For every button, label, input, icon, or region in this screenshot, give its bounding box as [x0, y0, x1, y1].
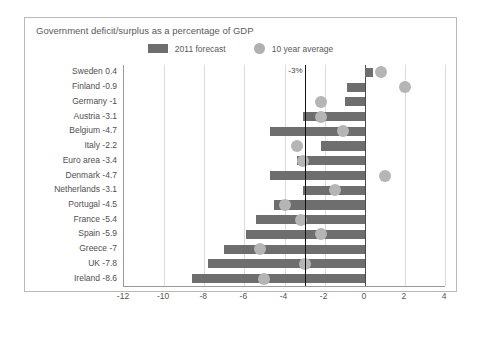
- bar: [321, 141, 365, 150]
- data-point-marker: [337, 125, 349, 137]
- legend-bar-swatch-icon: [148, 44, 168, 53]
- threshold-label: -3%: [288, 66, 304, 75]
- bar: [270, 171, 364, 180]
- category-label: Germany -1: [72, 97, 117, 106]
- data-point-marker: [291, 140, 303, 152]
- category-label: Finland -0.9: [72, 82, 117, 91]
- data-point-marker: [258, 273, 270, 285]
- category-label: Sweden 0.4: [72, 67, 117, 76]
- category-label: Italy -2.2: [84, 141, 117, 150]
- bar: [365, 68, 373, 77]
- category-label: Austria -3.1: [74, 112, 117, 121]
- x-axis-tick-label: -6: [240, 291, 248, 301]
- x-axis-tick-label: 2: [402, 291, 407, 301]
- bar: [303, 112, 365, 121]
- data-point-marker: [379, 170, 391, 182]
- category-label: Ireland -8.6: [74, 274, 117, 283]
- category-label: Denmark -4.7: [66, 171, 118, 180]
- x-axis-tick-label: 0: [361, 291, 366, 301]
- plot-area: -3%: [123, 65, 445, 287]
- data-point-marker: [375, 66, 387, 78]
- page-title: Government deficit/surplus as a percenta…: [36, 25, 254, 36]
- data-point-marker: [254, 243, 266, 255]
- category-label: Spain -5.9: [78, 229, 117, 238]
- category-label: UK -7.8: [88, 259, 117, 268]
- threshold-line: [305, 65, 307, 286]
- x-axis-tick-label: 4: [442, 291, 447, 301]
- category-label: Portugal -4.5: [68, 200, 117, 209]
- legend-item-average: 10 year average: [254, 43, 333, 54]
- bar: [208, 259, 364, 268]
- legend-label-average: 10 year average: [272, 44, 333, 54]
- gridline: [405, 65, 406, 286]
- chart-card: Government deficit/surplus as a percenta…: [24, 17, 457, 292]
- data-point-marker: [399, 81, 411, 93]
- value-axis-labels: -12-10-8-6-4-2024: [123, 287, 445, 305]
- data-point-marker: [315, 111, 327, 123]
- chart-screenshot: Government deficit/surplus as a percenta…: [0, 0, 481, 339]
- x-axis-tick-label: -10: [157, 291, 169, 301]
- legend-label-forecast: 2011 forecast: [175, 44, 226, 54]
- category-label: Netherlands -3.1: [54, 185, 117, 194]
- data-point-marker: [297, 155, 309, 167]
- gridline: [164, 65, 165, 286]
- bar: [224, 245, 364, 254]
- x-axis-tick-label: -2: [320, 291, 328, 301]
- chart-legend: 2011 forecast 10 year average: [25, 43, 456, 54]
- zero-line: [365, 65, 366, 286]
- category-label: Euro area -3.4: [63, 156, 117, 165]
- bar: [270, 127, 364, 136]
- x-axis-tick-label: -4: [280, 291, 288, 301]
- data-point-marker: [279, 199, 291, 211]
- category-axis-labels: Sweden 0.4Finland -0.9Germany -1Austria …: [35, 65, 121, 287]
- legend-circle-swatch-icon: [254, 43, 265, 54]
- bar: [192, 274, 365, 283]
- category-label: Belgium -4.7: [69, 126, 117, 135]
- data-point-marker: [315, 228, 327, 240]
- bar: [345, 97, 365, 106]
- category-label: France -5.4: [74, 215, 117, 224]
- gridline: [445, 65, 446, 286]
- data-point-marker: [315, 96, 327, 108]
- legend-item-forecast: 2011 forecast: [148, 44, 226, 54]
- bar: [256, 215, 364, 224]
- data-point-marker: [329, 184, 341, 196]
- plot-wrapper: Sweden 0.4Finland -0.9Germany -1Austria …: [35, 65, 448, 283]
- category-label: Greece -7: [79, 244, 117, 253]
- bar: [347, 83, 365, 92]
- x-axis-tick-label: -12: [117, 291, 129, 301]
- gridline: [204, 65, 205, 286]
- x-axis-tick-label: -8: [199, 291, 207, 301]
